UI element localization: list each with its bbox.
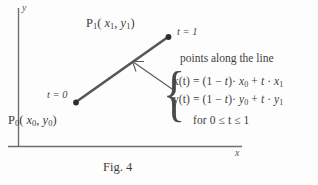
p1-paren-open: ( — [97, 16, 104, 30]
equation-x-of-t: x(t) = (1 − t)· x0 + t · x1 — [173, 76, 283, 89]
p0-paren-open: ( — [19, 113, 26, 127]
x-axis-label: x — [235, 148, 239, 158]
eq-y-dot: · — [264, 93, 274, 105]
p0-letter: P — [8, 113, 15, 127]
eq-x-mid: )· — [228, 75, 239, 87]
t-equals-one-label: t = 1 — [177, 27, 198, 38]
eq-x-lhs: x(t) = (1 − — [173, 75, 225, 87]
figure-caption: Fig. 4 — [103, 161, 132, 174]
annotation-heading: points along the line — [180, 53, 274, 65]
equation-y-of-t: y(t) = (1 − t)· y0 + t · y1 — [173, 94, 283, 107]
line-segment-p0-p1 — [76, 37, 168, 102]
eq-y-lhs: y(t) = (1 − — [173, 93, 225, 105]
parameter-range: for 0 ≤ t ≤ 1 — [193, 115, 249, 127]
point-p1-label: P1( x1, y1) — [86, 17, 135, 31]
eq-x-dot: · — [264, 75, 274, 87]
point-p0-dot — [73, 100, 79, 106]
eq-x-v2-sub: 1 — [279, 80, 283, 89]
eq-y-plus: + — [248, 93, 261, 105]
p1-paren-close: ) — [130, 16, 134, 30]
figure-lerp-line: y x P1( x1, y1) t = 1 t = 0 P0( x0, y0) … — [0, 0, 318, 185]
p1-letter: P — [86, 16, 93, 30]
point-p1-dot — [166, 34, 172, 40]
point-p0-label: P0( x0, y0) — [8, 114, 57, 128]
eq-y-mid: )· — [228, 93, 239, 105]
y-axis-label: y — [22, 3, 26, 13]
eq-y-v2-sub: 1 — [279, 98, 283, 107]
t-equals-zero-label: t = 0 — [47, 90, 68, 101]
p0-paren-close: ) — [52, 113, 56, 127]
eq-x-plus: + — [248, 75, 261, 87]
